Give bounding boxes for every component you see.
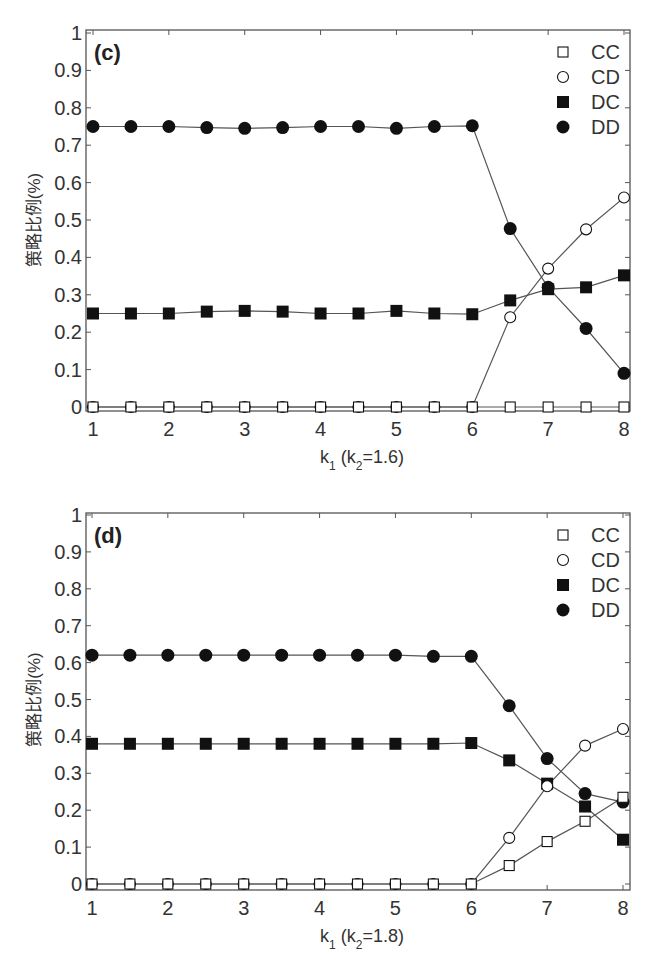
open-square-marker-icon [558, 530, 568, 540]
legend-item-cd: CD [558, 66, 620, 88]
legend: CCCDDCDD [557, 41, 620, 138]
legend-item-dc: DC [557, 91, 620, 113]
x-tick-label: 4 [315, 418, 326, 440]
x-tick-label: 8 [618, 418, 629, 440]
x-tick-label: 7 [542, 897, 553, 919]
y-tick-label: 0.1 [54, 836, 82, 858]
x-tick-label: 3 [239, 418, 250, 440]
y-tick-label: 0.6 [54, 652, 82, 674]
y-tick-label: 0.3 [54, 762, 82, 784]
y-axis: 00.10.20.30.40.50.60.70.80.91 [54, 22, 630, 418]
x-axis-title: k1 (k2=1.8) [320, 926, 404, 952]
chart-panel-d: 00.10.20.30.40.50.60.70.80.9112345678k1 … [0, 484, 657, 968]
x-tick-label: 6 [466, 897, 477, 919]
x-tick-label: 2 [163, 418, 174, 440]
x-axis: 12345678 [86, 513, 628, 919]
x-tick-label: 6 [467, 418, 478, 440]
x-tick-label: 3 [238, 897, 249, 919]
series-markers-dc [87, 269, 630, 320]
y-tick-label: 0.7 [54, 134, 82, 156]
open-circle-marker-icon [558, 72, 569, 83]
legend-item-dc: DC [557, 574, 620, 596]
y-tick-label: 0.4 [54, 725, 82, 747]
plot-area-frame [86, 513, 630, 890]
series-markers-cc [88, 402, 629, 412]
legend-label: DD [591, 116, 620, 138]
y-tick-label: 0.8 [54, 97, 82, 119]
y-tick-label: 1 [71, 22, 82, 44]
y-tick-label: 0.9 [54, 59, 82, 81]
x-tick-label: 1 [86, 897, 97, 919]
legend-item-cc: CC [558, 41, 620, 63]
chart-panel-c: 00.10.20.30.40.50.60.70.80.9112345678k1 … [0, 0, 657, 484]
series-line-dd [93, 126, 624, 373]
legend-label: CD [591, 66, 620, 88]
legend-label: CD [591, 549, 620, 571]
y-tick-label: 0 [71, 396, 82, 418]
series-line-cd [93, 198, 624, 407]
x-tick-label: 4 [314, 897, 325, 919]
y-tick-label: 0.6 [54, 172, 82, 194]
legend-item-dd: DD [557, 599, 620, 621]
y-tick-label: 0.5 [54, 689, 82, 711]
series-line-cd [92, 729, 623, 884]
y-tick-label: 0.5 [54, 209, 82, 231]
x-tick-label: 1 [87, 418, 98, 440]
legend-item-dd: DD [557, 116, 620, 138]
filled-square-marker-icon [557, 96, 569, 108]
legend-label: DC [591, 91, 620, 113]
x-tick-label: 5 [390, 897, 401, 919]
y-tick-label: 0.9 [54, 541, 82, 563]
y-tick-label: 0.7 [54, 615, 82, 637]
legend-item-cc: CC [558, 524, 620, 546]
y-tick-label: 0.3 [54, 284, 82, 306]
y-tick-label: 0 [71, 873, 82, 895]
legend-label: CC [591, 524, 620, 546]
series-markers-dd [87, 119, 631, 380]
y-tick-label: 0.2 [54, 321, 82, 343]
open-circle-marker-icon [558, 555, 569, 566]
legend-label: DD [591, 599, 620, 621]
panel-tag: (c) [94, 40, 121, 65]
legend: CCCDDCDD [557, 524, 620, 621]
filled-square-marker-icon [557, 579, 569, 591]
plot-area-frame [86, 30, 630, 411]
x-axis: 12345678 [87, 30, 629, 440]
x-axis-title: k1 (k2=1.6) [320, 447, 404, 473]
y-tick-label: 0.8 [54, 578, 82, 600]
y-axis-title: 策略比例(%) [25, 652, 44, 746]
x-tick-label: 5 [391, 418, 402, 440]
x-tick-label: 8 [617, 897, 628, 919]
y-axis-title: 策略比例(%) [25, 173, 44, 267]
y-tick-label: 1 [71, 504, 82, 526]
legend-item-cd: CD [558, 549, 620, 571]
y-tick-label: 0.2 [54, 799, 82, 821]
line-chart-c: 00.10.20.30.40.50.60.70.80.9112345678k1 … [0, 0, 657, 484]
line-chart-d: 00.10.20.30.40.50.60.70.80.9112345678k1 … [0, 484, 657, 968]
x-tick-label: 2 [162, 897, 173, 919]
filled-circle-marker-icon [557, 121, 570, 134]
y-tick-label: 0.4 [54, 246, 82, 268]
open-square-marker-icon [558, 47, 568, 57]
x-tick-label: 7 [543, 418, 554, 440]
y-tick-label: 0.1 [54, 359, 82, 381]
panel-tag: (d) [94, 523, 122, 548]
series-markers-cc [87, 792, 628, 889]
legend-label: CC [591, 41, 620, 63]
filled-circle-marker-icon [557, 604, 570, 617]
series-markers-cd [88, 192, 630, 412]
legend-label: DC [591, 574, 620, 596]
